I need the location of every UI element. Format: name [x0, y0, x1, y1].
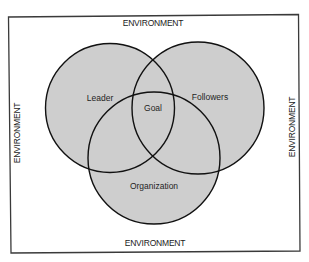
goal-label: Goal [144, 103, 162, 113]
followers-label: Followers [192, 92, 228, 102]
environment-label-right: ENVIRONMENT [287, 97, 297, 158]
leader-label: Leader [87, 93, 114, 103]
organization-label: Organization [130, 181, 178, 191]
environment-label-left: ENVIRONMENT [12, 103, 22, 164]
leadership-venn-diagram: ENVIRONMENT ENVIRONMENT ENVIRONMENT ENVI… [0, 0, 309, 262]
environment-label-top: ENVIRONMENT [123, 18, 184, 28]
environment-label-bottom: ENVIRONMENT [125, 238, 186, 248]
